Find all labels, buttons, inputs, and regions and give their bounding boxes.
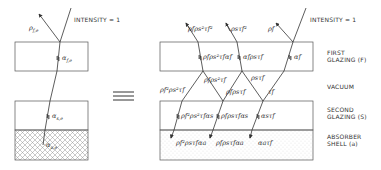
left-reflect-label: ρf,e [28,24,39,33]
absorber-label-1: ρf²ρsτfαa [175,139,206,147]
second-glazing-title-2: GLAZING (S) [327,113,367,120]
second-glazing-title-1: SECOND [327,106,354,113]
vacuum-label-5: τf [268,88,276,96]
absorber-title-2: SHELL (a) [327,140,358,147]
top-label-3: ρf [267,25,276,33]
vacuum-label-4: ρfρsτf [225,88,247,96]
left-reflected-ray [39,14,60,42]
glazing-diagram: INTENSITY = 1 ρf,e αf,e αs,e αa,e [0,0,381,170]
left-incident-ray [60,8,71,42]
first-glazing-label-2: αfρsτf [243,53,265,61]
top-label-1: ρfρs²τf² [187,25,213,33]
vacuum-title: VACUUM [327,83,354,90]
absorber-title-1: ABSORBER [327,133,362,140]
first-glazing-label-1: ρfρs²τfαf [202,53,233,61]
left-first-glazing [15,42,88,71]
vacuum-label-1: ρf²ρs²τf [159,86,186,94]
left-intensity-label: INTENSITY = 1 [74,16,120,23]
absorber-label-3: αaτf [258,139,274,147]
left-diagram: INTENSITY = 1 ρf,e αf,e αs,e αa,e [15,8,120,160]
second-glazing-label-3: αsτf [261,112,276,120]
right-reflect-f-ray [276,23,293,42]
first-glazing-title-2: GLAZING (F) [327,56,367,63]
right-incident-ray [293,8,306,42]
second-glazing-label-2: ρfρsτfαs [220,112,249,120]
absorber-label-2: ρfρsτfαa [215,139,244,147]
top-label-2: ρsτf² [230,25,247,33]
layer-labels: FIRST GLAZING (F) VACUUM SECOND GLAZING … [327,49,367,147]
first-glazing-title-1: FIRST [327,49,345,56]
right-intensity-label: INTENSITY = 1 [310,16,356,23]
equivalence-symbol [113,92,134,100]
vacuum-label-3: ρsτf [250,74,266,82]
vacuum-label-2: ρfρs²τf [203,76,228,84]
second-glazing-label-1: ρf²ρs²τfαs [180,112,214,120]
